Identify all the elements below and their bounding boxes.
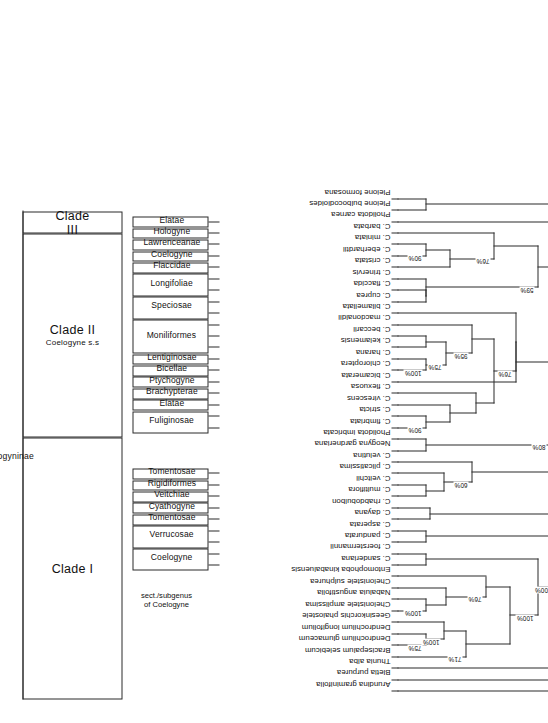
terminal-branch [391,484,398,485]
tree-branch-vertical [397,335,426,336]
tree-branch-vertical [397,564,426,565]
taxon-label: C. multiflora [348,484,390,493]
section-box-ptychogyne: Ptychogyne [132,376,208,387]
section-tip-connector [208,472,219,473]
section-tip-connector [208,553,219,554]
terminal-branch [391,335,398,336]
tree-branch-vertical [493,245,538,246]
tree-branch-vertical [397,576,486,577]
section-label: Tomentosae [133,513,209,524]
tree-branch-vertical [397,495,426,496]
taxon-label: C. rhabdobulbon [332,496,390,505]
tree-branch-vertical [397,381,516,382]
bootstrap-value: 71% [447,655,462,662]
tree-branch-vertical [397,553,426,554]
bootstrap-value: 75% [427,363,442,370]
taxon-label: C. kelamensis [340,335,390,344]
bootstrap-value: 60% [453,481,468,488]
terminal-branch [391,243,398,244]
tree-branch-vertical [397,221,548,222]
bootstrap-value: 100% [421,638,440,645]
section-box-cyathogyne: Cyathogyne [132,502,208,513]
clade-title: Clade II [49,323,94,337]
tree-branch-vertical [397,461,472,462]
section-tip-connector [208,518,219,519]
section-header-line2: of Coelogyne [140,600,191,609]
section-tip-connector [208,392,219,393]
section-label: Coelogyne [133,250,209,261]
tree-branch-vertical [397,392,476,393]
tree-branch-vertical [425,203,548,204]
tree-branch-vertical [425,490,444,491]
tree-branch-vertical [471,471,548,472]
terminal-branch [391,289,398,290]
taxon-label: Chelonistele amplissima [305,599,390,608]
terminal-branch [391,392,398,393]
terminal-branch [391,679,398,680]
section-box-rigidiformes: Rigidiformes [132,480,208,491]
tree-branch-vertical [537,266,548,267]
taxon-label: Pleione formosana [324,187,390,196]
tree-branch-vertical [397,301,426,302]
section-tip-connector [208,381,219,382]
section-label: Coelogyne [133,547,209,569]
terminal-branch [391,541,398,542]
terminal-branch [391,564,398,565]
taxon-label: C. pandurata [344,530,390,539]
section-tip-connector [208,369,219,370]
tree-branch-vertical [397,232,494,233]
section-tip-connector [208,289,219,290]
section-box-brachypterae: Brachypterae [132,388,208,399]
taxon-label: Dendrochilum glumaceum [298,633,390,642]
tree-branch-vertical [425,558,538,559]
terminal-branch [391,255,398,256]
tree-branch-vertical [443,630,466,631]
section-box-bicellae: Bicellae [132,365,208,376]
clade-box-1: Clade I [22,438,122,700]
taxon-label: C. macdonaldii [338,313,390,322]
bootstrap-value: 59% [519,286,534,293]
taxon-label: C. stricta [359,404,390,413]
taxon-label: C. sanderiana [341,553,390,562]
coelogyninae-label: Coelogyninae [0,450,33,460]
taxon-label: C. fimbriata [350,416,390,425]
tree-branch-vertical [397,598,426,599]
taxon-label: C. flexuosa [350,381,390,390]
section-tip-connector [208,243,219,244]
tree-branch-vertical [397,587,446,588]
taxon-label: C. cristata [354,255,390,264]
terminal-branch [391,347,398,348]
terminal-branch [391,232,398,233]
taxon-label: Pleione bulbocodioides [309,198,390,207]
taxon-label: Geesinkorchis phaiostele [302,610,390,619]
section-label: Tomentosae [133,467,209,478]
section-label: Elatae [133,398,209,409]
clade-label-wrap: Clade III [62,173,82,271]
tree-branch-vertical [425,249,450,250]
tree-branch-vertical [397,278,426,279]
section-tip-connector [208,301,219,302]
taxon-label: C. asperata [349,519,390,528]
section-box-coelogyne: Coelogyne [132,251,208,262]
section-box-verrucosae: Verrucosae [132,525,208,547]
clade-box-3: Clade III [22,211,122,233]
section-label: Flaccidae [133,261,209,272]
taxon-label: Bracisepalum selebicum [304,645,390,654]
bootstrap-value: 100% [403,609,422,616]
taxon-label: Dendrochilum longifolium [301,622,390,631]
terminal-branch [391,461,398,462]
terminal-branch [391,553,398,554]
terminal-branch [391,198,398,199]
terminal-branch [391,667,398,668]
section-tip-connector [208,347,219,348]
bootstrap-value: 76% [475,257,490,264]
taxon-label: C. virescens [347,393,391,402]
section-box-elatae: Elatae [132,216,208,227]
section-tip-connector [208,541,219,542]
bootstrap-value: 90% [407,254,422,261]
section-tip-connector [208,358,219,359]
section-tip-connector [208,266,219,267]
taxon-label: C. veitchii [356,473,390,482]
terminal-branch [391,633,398,634]
taxon-label: C. foerstermannii [330,542,390,551]
